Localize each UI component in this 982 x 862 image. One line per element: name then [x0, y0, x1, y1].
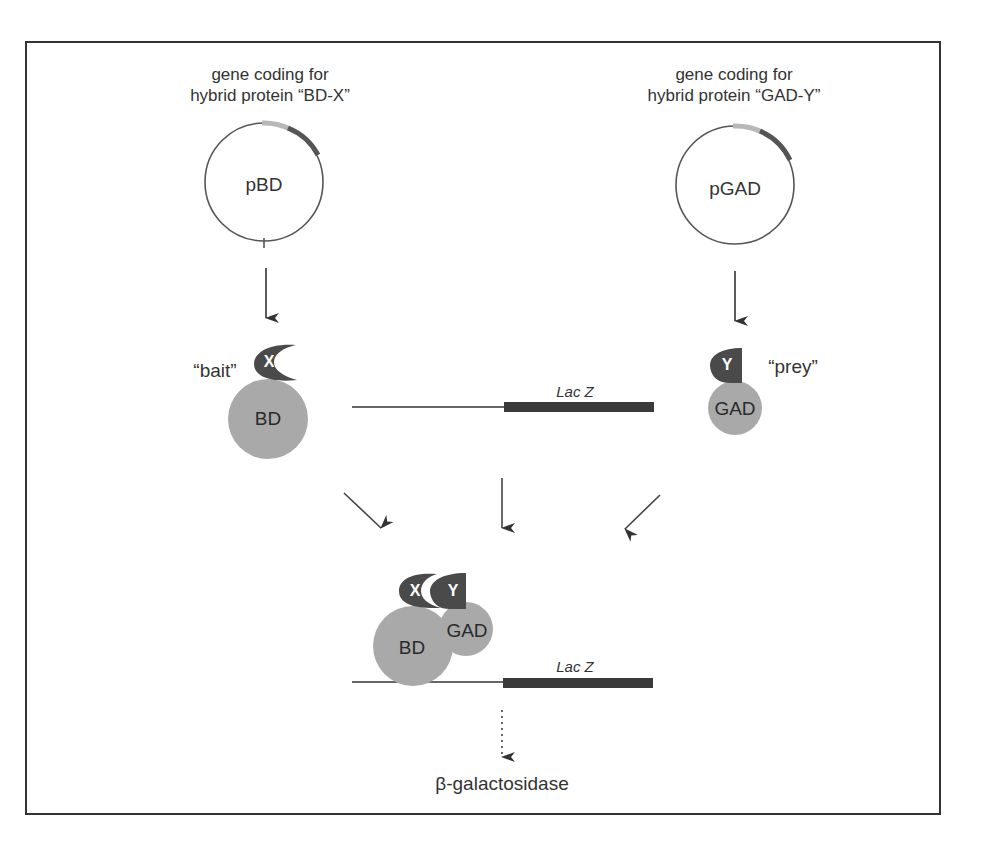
plasmid-pbd-gene-segment	[288, 128, 318, 155]
reporter-construct-top	[352, 402, 654, 412]
bait-bd-label: BD	[238, 408, 298, 430]
complex-gad-label: GAD	[437, 620, 497, 642]
pbd-caption: gene coding for hybrid protein “BD-X”	[190, 64, 350, 106]
arrow-bait-to-complex	[344, 493, 381, 528]
lacz-label-top: Lac Z	[545, 383, 605, 400]
plasmid-pgad-gene-segment	[760, 131, 790, 160]
complex-y-letter: Y	[443, 582, 463, 600]
plasmid-pbd-promoter-segment	[262, 123, 290, 129]
arrow-prey-to-complex	[625, 495, 660, 529]
bait-label: “bait”	[180, 360, 250, 382]
pgad-caption-line1: gene coding for	[634, 64, 834, 85]
pgad-caption: gene coding for hybrid protein “GAD-Y”	[634, 64, 834, 106]
complex-x-letter: X	[405, 582, 425, 600]
prey-gad-label: GAD	[705, 398, 765, 420]
yeast-two-hybrid-diagram	[0, 0, 982, 862]
plasmid-pbd-label: pBD	[224, 174, 304, 196]
lacz-gene-bar-bottom	[503, 678, 653, 688]
pbd-caption-line1: gene coding for	[190, 64, 350, 85]
bait-x-letter: X	[260, 353, 278, 371]
pbd-caption-line2: hybrid protein “BD-X”	[190, 85, 350, 106]
pgad-caption-line2: hybrid protein “GAD-Y”	[634, 85, 834, 106]
lacz-label-bottom: Lac Z	[545, 658, 605, 675]
plasmid-pgad-label: pGAD	[690, 178, 780, 200]
prey-y-letter: Y	[717, 356, 737, 374]
complex-bd-label: BD	[382, 637, 442, 659]
prey-label: “prey”	[758, 356, 828, 378]
beta-galactosidase-label: β-galactosidase	[432, 773, 572, 795]
plasmid-pgad-promoter-segment	[733, 126, 762, 132]
lacz-gene-bar	[504, 402, 654, 412]
